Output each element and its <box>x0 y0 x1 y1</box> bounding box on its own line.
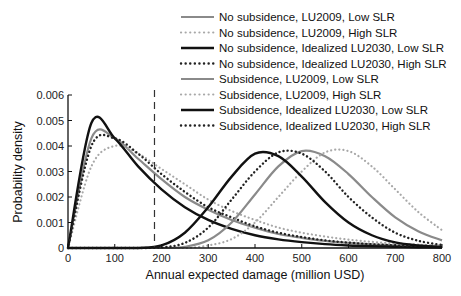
series-curve-7 <box>68 152 442 248</box>
x-tick-label: 500 <box>293 252 311 264</box>
probability-density-chart: 00.0010.0020.0030.0040.0050.006 01002003… <box>0 0 461 296</box>
y-tick-label: 0.004 <box>36 140 64 152</box>
series-curve-4 <box>68 135 442 248</box>
y-tick-label: 0.001 <box>36 217 64 229</box>
plot-curves <box>68 117 442 248</box>
series-curve-6 <box>68 150 442 248</box>
y-tick-label: 0.006 <box>36 89 64 101</box>
x-tick-label: 200 <box>152 252 170 264</box>
legend-label: Subsidence, LU2009, High SLR <box>219 89 381 101</box>
legend-label: No subsidence, Idealized LU2030, Low SLR <box>219 42 444 54</box>
series-curve-5 <box>68 151 442 248</box>
y-tick-label: 0 <box>58 242 64 254</box>
x-tick-label: 0 <box>65 252 71 264</box>
y-tick-label: 0.002 <box>36 191 64 203</box>
series-curve-2 <box>68 146 442 248</box>
x-tick-label: 100 <box>106 252 124 264</box>
x-tick-label: 800 <box>433 252 451 264</box>
y-axis-title: Probability density <box>11 121 25 223</box>
series-curve-8 <box>68 151 442 248</box>
y-tick-label: 0.005 <box>36 115 64 127</box>
legend-label: Subsidence, Idealized LU2030, Low SLR <box>219 104 428 116</box>
x-tick-label: 600 <box>339 252 357 264</box>
legend: No subsidence, LU2009, Low SLRNo subside… <box>181 11 447 132</box>
legend-label: No subsidence, LU2009, High SLR <box>219 27 397 39</box>
y-axis: 00.0010.0020.0030.0040.0050.006 <box>36 89 72 254</box>
y-tick-label: 0.003 <box>36 166 64 178</box>
x-axis-title: Annual expected damage (million USD) <box>146 268 365 282</box>
legend-label: Subsidence, LU2009, Low SLR <box>219 73 379 85</box>
x-tick-label: 700 <box>386 252 404 264</box>
x-tick-label: 400 <box>246 252 264 264</box>
legend-label: No subsidence, LU2009, Low SLR <box>219 11 395 23</box>
legend-label: Subsidence, Idealized LU2030, High SLR <box>219 120 431 132</box>
legend-label: No subsidence, Idealized LU2030, High SL… <box>219 58 447 70</box>
x-tick-label: 300 <box>199 252 217 264</box>
